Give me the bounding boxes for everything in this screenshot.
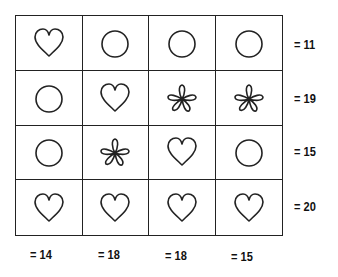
row-sum-1: = 11 [294, 37, 315, 52]
circle-icon [96, 24, 134, 62]
grid-cell [149, 126, 216, 181]
grid-cell [83, 126, 150, 181]
flower-icon [230, 79, 268, 117]
grid-cell [16, 16, 83, 71]
row-sum-2: = 19 [294, 91, 316, 106]
heart-icon [96, 189, 134, 227]
row-sum-4: = 20 [294, 199, 316, 214]
circle-icon [30, 79, 68, 117]
grid-cell [216, 16, 283, 71]
grid-cell [216, 126, 283, 181]
grid-cell [149, 71, 216, 126]
flower-icon [163, 79, 201, 117]
circle-icon [230, 133, 268, 171]
col-sum-3: = 18 [165, 248, 187, 263]
col-sum-1: = 14 [30, 247, 52, 262]
flower-icon [96, 133, 134, 171]
heart-icon [96, 79, 134, 117]
grid-cell [16, 71, 83, 126]
grid-cell [83, 180, 150, 235]
heart-icon [30, 189, 68, 227]
heart-icon [163, 133, 201, 171]
col-sum-2: = 18 [98, 247, 120, 262]
grid-cell [83, 16, 150, 71]
circle-icon [163, 24, 201, 62]
puzzle-grid [15, 15, 283, 236]
grid-cell [149, 16, 216, 71]
circle-icon [230, 24, 268, 62]
heart-icon [230, 189, 268, 227]
circle-icon [30, 133, 68, 171]
heart-icon [163, 189, 201, 227]
heart-icon [30, 24, 68, 62]
grid-cell [16, 126, 83, 181]
grid-cell [83, 71, 150, 126]
grid-cell [149, 180, 216, 235]
grid-cell [16, 180, 83, 235]
grid-cell [216, 71, 283, 126]
col-sum-4: = 15 [231, 249, 253, 264]
row-sum-3: = 15 [294, 144, 316, 159]
grid-cell [216, 180, 283, 235]
